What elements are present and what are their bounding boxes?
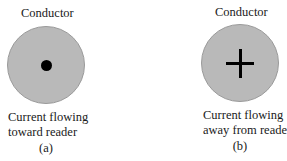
caption-b-line1: Current flowing [203,108,283,122]
current-away-cross-icon-vertical [239,49,242,78]
sublabel-b: (b) [230,139,250,153]
sublabel-a: (a) [36,141,56,155]
caption-a-line2: toward reader [8,125,77,139]
conductor-label-a: Conductor [21,6,71,20]
caption-a-line1: Current flowing [8,110,88,124]
conductor-label-b: Conductor [215,5,265,19]
caption-b-line2: away from reader [203,123,287,137]
current-toward-dot-icon [41,60,52,71]
